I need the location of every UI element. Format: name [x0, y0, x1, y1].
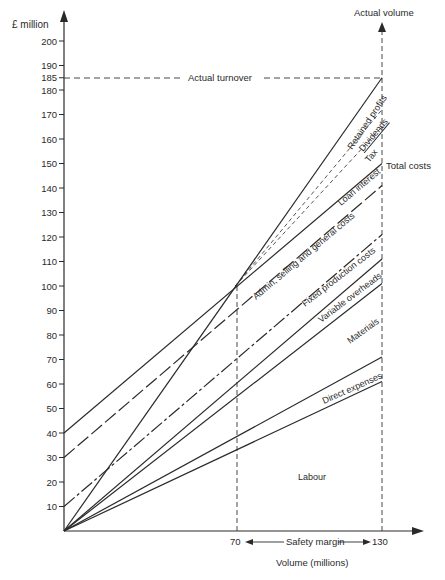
- y-tick-label: 150: [41, 158, 57, 169]
- label-admin: Admin, selling and general costs: [251, 210, 357, 301]
- label-labour: Labour: [298, 472, 326, 482]
- label-loan-interest: Loan interest: [336, 166, 383, 207]
- x-axis-label: Volume (millions): [276, 557, 348, 568]
- y-tick-label: 170: [41, 109, 57, 120]
- x-tick-70: 70: [230, 536, 241, 547]
- y-tick-label: 140: [41, 183, 57, 194]
- x-tick-130: 130: [372, 536, 388, 547]
- x-axis-arrow-icon: [412, 527, 424, 535]
- y-tick-label: 50: [46, 403, 57, 414]
- y-tick-label: 110: [42, 256, 57, 267]
- y-tick-label: 160: [41, 134, 57, 145]
- y-tick-label: 190: [41, 60, 57, 71]
- y-tick-label: 90: [46, 305, 57, 316]
- safety-margin-label: Safety margin: [286, 536, 345, 547]
- y-axis-arrow-icon: [60, 10, 68, 22]
- y-tick-label: 40: [46, 428, 57, 439]
- actual-turnover-label: Actual turnover: [188, 72, 252, 83]
- y-axis-label: £ million: [12, 19, 49, 30]
- breakeven-chart: £ million 102030405060708090100110120130…: [0, 0, 445, 580]
- y-tick-label: 180: [41, 85, 57, 96]
- arrow-left-icon: [245, 539, 253, 545]
- actual-volume-label: Actual volume: [354, 7, 414, 18]
- y-tick-label: 80: [46, 330, 57, 341]
- y-tick-label: 120: [41, 232, 57, 243]
- series-line: [64, 382, 382, 531]
- label-total-costs: Total costs: [386, 160, 431, 171]
- y-tick-label: 185: [41, 72, 57, 83]
- label-direct-expenses: Direct expenses: [321, 370, 384, 406]
- y-tick-label: 200: [41, 36, 57, 47]
- y-tick-label: 60: [46, 379, 57, 390]
- y-tick-label: 30: [46, 452, 57, 463]
- arrow-right-icon: [363, 539, 371, 545]
- series-line: [64, 284, 382, 531]
- y-tick-label: 20: [46, 477, 57, 488]
- y-tick-label: 10: [46, 501, 57, 512]
- actual-volume-arrow-icon: [378, 22, 386, 32]
- label-materials: Materials: [345, 316, 381, 346]
- y-ticks: 1020304050607080901001101201301401501601…: [41, 36, 64, 513]
- y-tick-label: 100: [41, 281, 57, 292]
- series-line: [64, 357, 382, 531]
- y-tick-label: 70: [46, 354, 57, 365]
- y-tick-label: 130: [41, 207, 57, 218]
